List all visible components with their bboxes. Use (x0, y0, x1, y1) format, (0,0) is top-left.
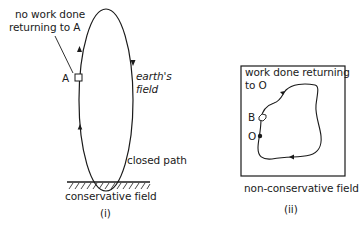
leader-line (55, 36, 73, 73)
point-a-label: A (62, 72, 69, 84)
point-b-label: B (248, 111, 255, 123)
arrow-up-icon (78, 124, 83, 130)
panel-i-numeral: (i) (100, 207, 111, 219)
field-label-line-2: field (136, 83, 158, 95)
field-label-line-1: earth's (136, 70, 172, 82)
point-o-label: O (248, 130, 256, 142)
irregular-closed-path (258, 84, 321, 159)
non-conservative-field-caption: non-conservative field (244, 182, 359, 194)
annotation-line-2: returning to A (9, 21, 80, 33)
conservative-field-caption: conservative field (65, 190, 157, 202)
closed-path-label: closed path (127, 154, 187, 166)
ground-hatching (69, 183, 150, 189)
annotation-line-1: work done returning (245, 66, 350, 78)
point-b-marker (259, 114, 266, 121)
point-o-marker (258, 134, 262, 138)
closed-path-ellipse (79, 9, 133, 191)
annotation-line-2: to O (245, 79, 267, 91)
annotation-line-1: no work done (15, 8, 85, 20)
panel-ii-numeral: (ii) (284, 203, 298, 215)
arrow-up-icon (77, 46, 82, 52)
arrow-icon (289, 155, 294, 160)
point-a-marker (75, 74, 82, 81)
